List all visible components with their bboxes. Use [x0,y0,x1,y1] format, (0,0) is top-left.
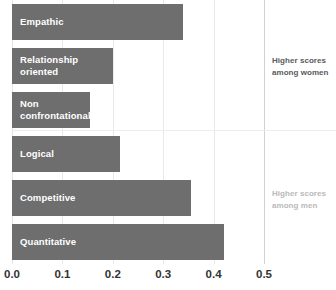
bar-relationship-oriented [12,48,113,84]
annotation-higher-scores-men: Higher scores among men [272,188,326,211]
group-divider [12,130,336,131]
x-tick-label-0.4: 0.4 [206,268,222,280]
bar-quantitative [12,224,224,260]
bar-row: Quantitative [0,224,336,260]
bar-non-confrontational [12,92,90,128]
bar-competitive [12,180,191,216]
bar-row: Logical [0,136,336,172]
x-tick-label-0.0: 0.0 [4,268,20,280]
bar-empathic [12,4,183,40]
x-tick-label-0.1: 0.1 [54,268,70,280]
horizontal-bar-chart: EmpathicRelationship orientedNon confron… [0,0,336,290]
x-axis: 0.00.10.20.30.40.5 [0,264,336,290]
bar-row: Non confrontational [0,92,336,128]
bar-row: Empathic [0,4,336,40]
plot-area: EmpathicRelationship orientedNon confron… [0,0,336,264]
x-tick-label-0.3: 0.3 [155,268,171,280]
annotation-higher-scores-women: Higher scores among women [272,55,329,78]
bar-logical [12,136,120,172]
x-tick-label-0.2: 0.2 [105,268,121,280]
x-tick-label-0.5: 0.5 [256,268,272,280]
